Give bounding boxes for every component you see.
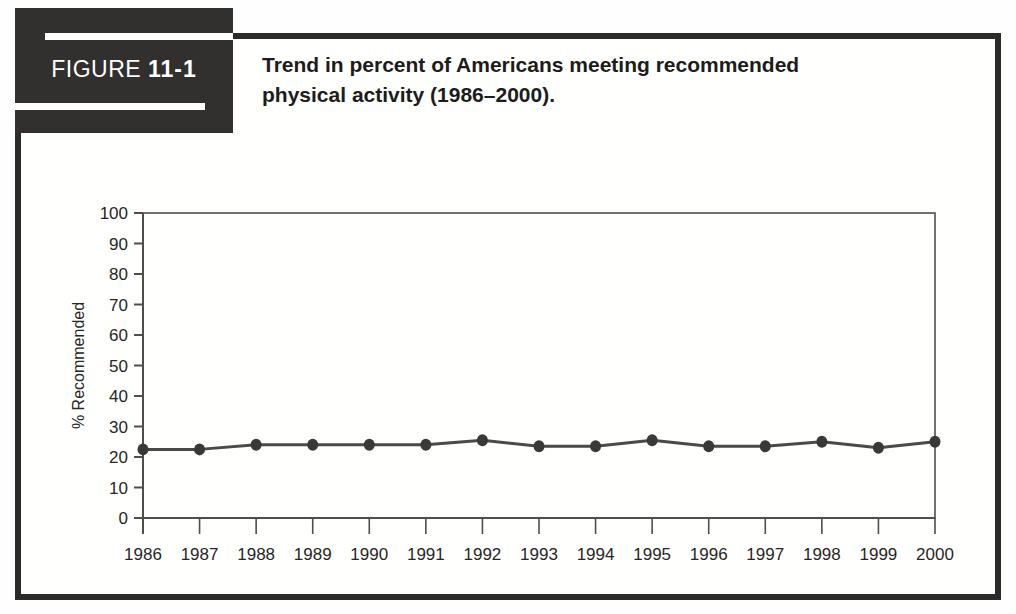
header-stripe-bottom <box>15 103 205 110</box>
x-tick-label: 1986 <box>124 545 162 564</box>
data-point <box>251 439 262 451</box>
y-tick-label: 80 <box>109 265 128 284</box>
x-tick-label: 1997 <box>746 545 784 564</box>
plot-border <box>143 213 935 518</box>
y-tick-label: 0 <box>119 509 128 528</box>
x-tick-label: 1993 <box>520 545 558 564</box>
page-background: FIGURE 11-1 Trend in percent of American… <box>0 0 1016 614</box>
y-tick-label: 20 <box>109 448 128 467</box>
figure-label-number: 11-1 <box>148 56 197 82</box>
data-point <box>420 439 431 451</box>
y-tick-label: 100 <box>100 204 128 223</box>
data-point <box>534 440 545 452</box>
data-point <box>138 443 149 455</box>
y-axis-title: % Recommended <box>70 302 87 429</box>
data-point <box>477 434 488 446</box>
figure-label-prefix: FIGURE <box>51 56 141 82</box>
y-tick-label: 30 <box>109 418 128 437</box>
x-tick-label: 1987 <box>181 545 219 564</box>
figure-label: FIGURE 11-1 <box>15 56 233 83</box>
y-tick-label: 70 <box>109 296 128 315</box>
x-tick-label: 1989 <box>294 545 332 564</box>
x-tick-label: 1996 <box>690 545 728 564</box>
y-tick-label: 40 <box>109 387 128 406</box>
data-point <box>703 440 714 452</box>
figure-title: Trend in percent of Americans meeting re… <box>262 50 862 111</box>
x-tick-label: 1991 <box>407 545 445 564</box>
header-stripe-top <box>45 33 233 40</box>
y-tick-label: 10 <box>109 479 128 498</box>
data-point <box>816 436 827 448</box>
y-tick-label: 90 <box>109 235 128 254</box>
data-point <box>760 440 771 452</box>
data-point <box>590 440 601 452</box>
x-tick-label: 1994 <box>577 545 615 564</box>
data-point <box>364 439 375 451</box>
y-tick-label: 60 <box>109 326 128 345</box>
data-point <box>307 439 318 451</box>
x-tick-label: 1998 <box>803 545 841 564</box>
x-tick-label: 1990 <box>350 545 388 564</box>
data-point <box>873 442 884 454</box>
data-point <box>194 443 205 455</box>
figure-label-box: FIGURE 11-1 <box>15 8 233 133</box>
x-tick-label: 2000 <box>916 545 954 564</box>
y-tick-label: 50 <box>109 357 128 376</box>
x-tick-label: 1999 <box>860 545 898 564</box>
x-tick-label: 1988 <box>237 545 275 564</box>
x-tick-label: 1995 <box>633 545 671 564</box>
data-point <box>647 434 658 446</box>
data-point <box>930 436 941 448</box>
x-tick-label: 1992 <box>464 545 502 564</box>
